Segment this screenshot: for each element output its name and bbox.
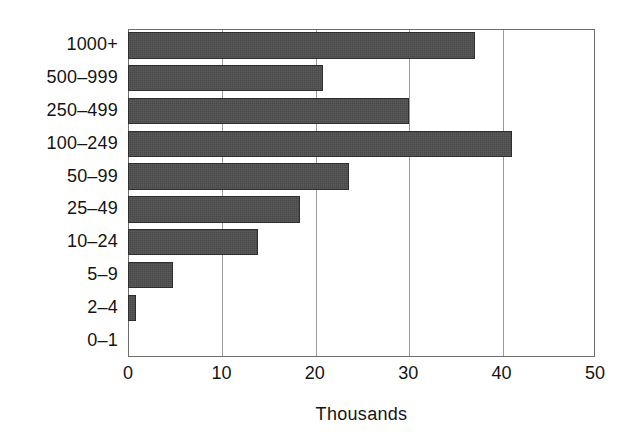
bar-25–49 [128,196,300,222]
x-axis-tick-40: 40 [492,363,512,384]
y-axis-label-1000+: 1000+ [0,34,118,55]
bar-chart: 1000+500–999250–499100–24950–9925–4910–2… [0,0,629,446]
bar-500–999 [128,65,323,91]
bar-row [128,196,595,222]
y-axis-category-labels: 1000+500–999250–499100–24950–9925–4910–2… [0,29,118,357]
bar-10–24 [128,229,258,255]
bar-row [128,65,595,91]
y-axis-label-0–1: 0–1 [0,330,118,351]
x-axis-tick-labels: 01020304050 [128,363,595,391]
x-axis-tick-50: 50 [585,363,605,384]
y-axis-label-25–49: 25–49 [0,198,118,219]
y-axis-label-10–24: 10–24 [0,231,118,252]
y-axis-label-250–499: 250–499 [0,100,118,121]
bar-5–9 [128,262,173,288]
x-axis-tick-10: 10 [211,363,231,384]
bar-50–99 [128,163,349,189]
bar-row [128,131,595,157]
bar-250–499 [128,98,409,124]
y-axis-label-5–9: 5–9 [0,264,118,285]
y-axis-label-50–99: 50–99 [0,166,118,187]
y-axis-label-2–4: 2–4 [0,297,118,318]
y-axis-label-500–999: 500–999 [0,67,118,88]
bar-2–4 [128,295,136,321]
x-axis-tick-20: 20 [305,363,325,384]
bar-row [128,32,595,58]
bar-row [128,327,595,353]
y-axis-label-100–249: 100–249 [0,133,118,154]
bar-100–249 [128,131,512,157]
bars-layer [128,29,595,357]
bar-row [128,229,595,255]
bar-1000+ [128,32,475,58]
bar-row [128,295,595,321]
bar-row [128,163,595,189]
bar-row [128,262,595,288]
x-axis-title: Thousands [128,404,595,425]
x-axis-tick-0: 0 [123,363,133,384]
bar-row [128,98,595,124]
x-axis-tick-30: 30 [398,363,418,384]
